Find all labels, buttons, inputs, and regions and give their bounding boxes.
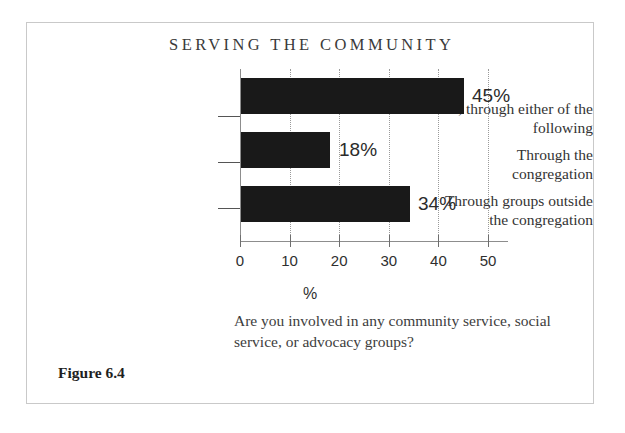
xtick-label-0: 0	[220, 252, 260, 269]
x-axis-line	[240, 241, 508, 242]
bar-1	[241, 132, 330, 168]
xtick-mark-10	[290, 235, 291, 247]
figure-frame: SERVING THE COMMUNITY Yes, through eithe…	[26, 22, 594, 404]
xtick-mark-40	[438, 235, 439, 247]
xtick-label-50: 50	[468, 252, 508, 269]
xtick-mark-0	[240, 235, 241, 247]
chart-title: SERVING THE COMMUNITY	[27, 35, 593, 55]
xtick-label-30: 30	[369, 252, 409, 269]
category-tick-1	[218, 162, 240, 163]
bar-value-1: 18%	[339, 132, 377, 168]
xtick-mark-50	[488, 235, 489, 247]
x-axis-title: %	[27, 285, 593, 303]
category-tick-2	[218, 208, 240, 209]
figure-number: Figure 6.4	[58, 364, 125, 382]
bar-0	[241, 78, 464, 114]
category-tick-0	[218, 116, 240, 117]
xtick-label-20: 20	[319, 252, 359, 269]
xtick-label-40: 40	[418, 252, 458, 269]
xtick-mark-20	[339, 235, 340, 247]
plot-area: 45% 18% 34% 0 10 20 30 40 50	[240, 69, 488, 241]
bar-value-0: 45%	[472, 78, 510, 114]
xtick-mark-30	[389, 235, 390, 247]
bar-2	[241, 186, 410, 222]
bar-value-2: 34%	[418, 186, 456, 222]
xtick-label-10: 10	[270, 252, 310, 269]
question-caption: Are you involved in any community servic…	[234, 310, 564, 352]
